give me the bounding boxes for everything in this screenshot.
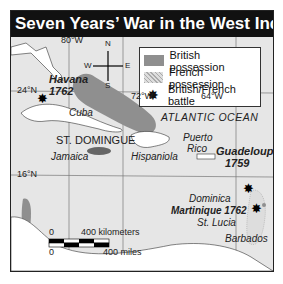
compass-w: W — [84, 61, 92, 70]
lon-80w: 80°W — [61, 35, 83, 45]
map-legend: British possession French possession ✸ B… — [139, 47, 261, 107]
lat-24n: 24°N — [17, 85, 37, 95]
svg-text:✸: ✸ — [251, 201, 262, 216]
british-swatch-icon — [144, 55, 164, 66]
label-cuba: Cuba — [69, 107, 93, 118]
scale-mi-zero: 0 — [49, 247, 54, 257]
label-st-lucia: St. Lucia — [197, 217, 236, 228]
compass-e: E — [125, 61, 130, 70]
lon-64w: 64°W — [201, 91, 223, 101]
label-havana-year: 1762 — [49, 85, 73, 97]
scale-km-label: 400 kilometers — [81, 227, 140, 237]
scale-mi-label: 400 miles — [103, 247, 142, 257]
legend-item-battle: ✸ British/French battle — [144, 86, 256, 103]
label-dominica: Dominica — [189, 193, 231, 204]
compass-s: S — [105, 81, 110, 90]
label-rico: Rico — [187, 143, 207, 154]
svg-text:✸: ✸ — [243, 181, 254, 196]
label-barbados: Barbados — [225, 233, 268, 244]
label-hispaniola: Hispaniola — [131, 151, 178, 162]
label-guadeloupe-year: 1759 — [225, 157, 249, 169]
compass-n: N — [105, 39, 111, 48]
french-swatch-icon — [144, 72, 163, 83]
label-martinique: Martinique 1762 — [171, 205, 247, 216]
map-frame: Seven Years’ War in the West Indies — [10, 10, 274, 272]
svg-text:✸: ✸ — [37, 91, 48, 106]
label-havana: Havana — [49, 73, 88, 85]
label-puerto: Puerto — [183, 132, 212, 143]
lon-72w: 72°W — [131, 91, 153, 101]
label-guadeloupe: Guadeloupe — [216, 145, 274, 157]
label-atlantic-ocean: ATLANTIC OCEAN — [161, 111, 258, 123]
lat-16n: 16°N — [17, 169, 37, 179]
map-area: ✸ ✸ ✸ British possession French possessi… — [11, 37, 273, 271]
label-jamaica: Jamaica — [51, 151, 88, 162]
scale-km-zero: 0 — [49, 227, 54, 237]
label-st-domingue: ST. DOMINGUE — [56, 134, 135, 146]
map-title: Seven Years’ War in the West Indies — [11, 11, 273, 37]
